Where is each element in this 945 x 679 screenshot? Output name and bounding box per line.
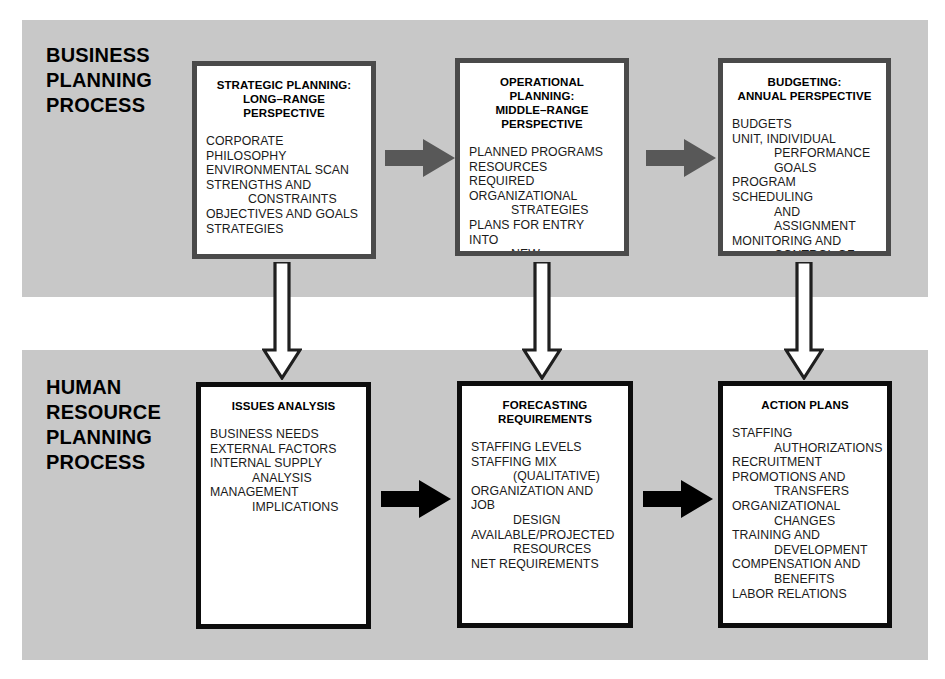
box-forecasting-requirements-inner: FORECASTING REQUIREMENTS STAFFING LEVELS… (462, 386, 628, 623)
box-item: BUSINESS NEEDS (210, 427, 357, 442)
box-item: ANALYSIS (210, 471, 357, 486)
box-item: ENVIRONMENTAL SCAN (206, 163, 362, 178)
box-item: TRAINING AND (732, 528, 878, 543)
box-item: AND ASSIGNMENT (732, 205, 877, 234)
box-action-plans-title: ACTION PLANS (732, 398, 878, 412)
arrow-right-icon-issues-to-forecasting (381, 478, 451, 520)
box-item: TRANSFERS (732, 484, 878, 499)
box-strategic-planning-items: CORPORATE PHILOSOPHYENVIRONMENTAL SCANST… (206, 134, 362, 236)
box-item: PLANS FOR ENTRY INTO (469, 218, 615, 247)
box-operational-planning-title: OPERATIONAL PLANNING: MIDDLE–RANGE PERSP… (469, 75, 615, 131)
box-item: RESOURCES REQUIRED (469, 160, 615, 189)
box-operational-planning-inner: OPERATIONAL PLANNING: MIDDLE–RANGE PERSP… (460, 63, 624, 251)
box-item: CONTROL OF (732, 248, 877, 251)
box-action-plans[interactable]: ACTION PLANS STAFFINGAUTHORIZATIONSRECRU… (718, 381, 892, 628)
box-forecasting-requirements-title: FORECASTING REQUIREMENTS (471, 398, 619, 426)
box-item: STAFFING LEVELS (471, 440, 619, 455)
box-item: RECRUITMENT (732, 455, 878, 470)
box-operational-planning[interactable]: OPERATIONAL PLANNING: MIDDLE–RANGE PERSP… (455, 58, 629, 256)
arrow-right-icon-operational-to-budgeting (646, 137, 716, 179)
box-item: MONITORING AND (732, 234, 877, 249)
box-operational-planning-items: PLANNED PROGRAMSRESOURCES REQUIREDORGANI… (469, 145, 615, 251)
box-forecasting-requirements[interactable]: FORECASTING REQUIREMENTS STAFFING LEVELS… (457, 381, 633, 628)
box-action-plans-items: STAFFINGAUTHORIZATIONSRECRUITMENTPROMOTI… (732, 426, 878, 601)
box-item: AVAILABLE/PROJECTED (471, 528, 619, 543)
arrow-down-icon-strategic-to-issues (262, 262, 302, 380)
box-strategic-planning-title: STRATEGIC PLANNING: LONG–RANGE PERSPECTI… (206, 78, 362, 120)
arrow-right-icon-strategic-to-operational (385, 137, 455, 179)
box-item: INTERNAL SUPPLY (210, 456, 357, 471)
box-item: LABOR RELATIONS (732, 587, 878, 602)
box-budgeting-title: BUDGETING: ANNUAL PERSPECTIVE (732, 75, 877, 103)
box-item: RESOURCES (471, 542, 619, 557)
box-issues-analysis[interactable]: ISSUES ANALYSIS BUSINESS NEEDSEXTERNAL F… (196, 382, 371, 629)
box-item: CONSTRAINTS (206, 192, 362, 207)
box-budgeting[interactable]: BUDGETING: ANNUAL PERSPECTIVE BUDGETSUNI… (718, 58, 891, 256)
box-item: BUDGETS (732, 117, 877, 132)
box-item: STRATEGIES (206, 222, 362, 237)
box-item: GOALS (732, 161, 877, 176)
diagram-canvas: BUSINESS PLANNING PROCESS HUMAN RESOURCE… (0, 0, 945, 679)
box-item: CORPORATE PHILOSOPHY (206, 134, 362, 163)
box-item: PERFORMANCE (732, 146, 877, 161)
box-item: CHANGES (732, 514, 878, 529)
arrow-down-icon-operational-to-forecasting (522, 262, 562, 380)
box-item: OBJECTIVES AND GOALS (206, 207, 362, 222)
box-item: STAFFING (732, 426, 878, 441)
box-item: DEVELOPMENT (732, 543, 878, 558)
box-item: IMPLICATIONS (210, 500, 357, 515)
box-item: PLANNED PROGRAMS (469, 145, 615, 160)
box-budgeting-inner: BUDGETING: ANNUAL PERSPECTIVE BUDGETSUNI… (723, 63, 886, 251)
box-forecasting-requirements-items: STAFFING LEVELSSTAFFING MIX(QUALITATIVE)… (471, 440, 619, 571)
box-action-plans-inner: ACTION PLANS STAFFINGAUTHORIZATIONSRECRU… (723, 386, 887, 623)
box-item: EXTERNAL FACTORS (210, 442, 357, 457)
box-item: ORGANIZATIONAL (469, 189, 615, 204)
human-resource-planning-process-label: HUMAN RESOURCE PLANNING PROCESS (46, 375, 161, 475)
box-strategic-planning[interactable]: STRATEGIC PLANNING: LONG–RANGE PERSPECTI… (192, 61, 376, 259)
box-item: NEW BUSINESSES, (469, 247, 615, 251)
box-issues-analysis-inner: ISSUES ANALYSIS BUSINESS NEEDSEXTERNAL F… (201, 387, 366, 624)
box-item: ORGANIZATIONAL (732, 499, 878, 514)
box-item: PROMOTIONS AND (732, 470, 878, 485)
box-item: (QUALITATIVE) (471, 469, 619, 484)
box-issues-analysis-items: BUSINESS NEEDSEXTERNAL FACTORSINTERNAL S… (210, 427, 357, 515)
box-issues-analysis-title: ISSUES ANALYSIS (210, 399, 357, 413)
box-item: STRENGTHS AND (206, 178, 362, 193)
box-strategic-planning-inner: STRATEGIC PLANNING: LONG–RANGE PERSPECTI… (197, 66, 371, 254)
arrow-right-icon-forecasting-to-action (643, 478, 713, 520)
box-item: STAFFING MIX (471, 455, 619, 470)
box-item: AUTHORIZATIONS (732, 441, 878, 456)
box-item: PROGRAM SCHEDULING (732, 175, 877, 204)
box-item: NET REQUIREMENTS (471, 557, 619, 572)
box-item: BENEFITS (732, 572, 878, 587)
box-item: ORGANIZATION AND JOB (471, 484, 619, 513)
box-item: MANAGEMENT (210, 485, 357, 500)
business-planning-process-label: BUSINESS PLANNING PROCESS (46, 43, 152, 118)
box-budgeting-items: BUDGETSUNIT, INDIVIDUALPERFORMANCEGOALSP… (732, 117, 877, 251)
box-item: COMPENSATION AND (732, 557, 878, 572)
box-item: STRATEGIES (469, 203, 615, 218)
box-item: UNIT, INDIVIDUAL (732, 132, 877, 147)
arrow-down-icon-budgeting-to-action (784, 262, 824, 380)
box-item: DESIGN (471, 513, 619, 528)
